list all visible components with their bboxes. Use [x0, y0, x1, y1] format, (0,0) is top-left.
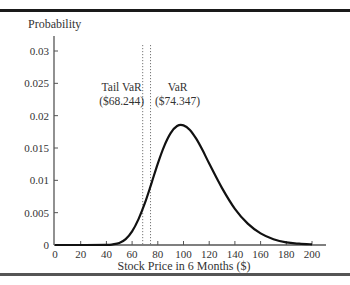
y-axis-title: Probability: [28, 17, 81, 31]
y-tick-label: 0.005: [24, 207, 49, 219]
y-tick-label: 0.03: [30, 45, 50, 57]
probability-density-chart: Probability 00.0050.010.0150.020.0250.03…: [0, 0, 350, 285]
y-tick-label: 0: [44, 239, 50, 251]
var-label-value: ($68.244): [99, 95, 144, 108]
x-tick-label: 180: [278, 248, 295, 260]
x-tick-label: 20: [75, 248, 87, 260]
y-tick-label: 0.015: [24, 142, 49, 154]
density-curve: [55, 125, 312, 245]
x-axis: 020406080100120140160180200: [52, 241, 326, 260]
bottom-rule: [0, 273, 350, 276]
var-label-title: VaR: [168, 81, 188, 93]
x-tick-label: 200: [304, 248, 321, 260]
y-axis: 00.0050.010.0150.020.0250.03: [24, 36, 58, 251]
x-tick-label: 0: [52, 248, 58, 260]
var-label-title: Tail VaR: [102, 81, 143, 93]
x-tick-label: 40: [101, 248, 113, 260]
var-markers: Tail VaR($68.244)VaR($74.347): [99, 45, 200, 245]
y-tick-label: 0.01: [30, 174, 49, 186]
y-tick-label: 0.025: [24, 77, 49, 89]
var-label-value: ($74.347): [155, 95, 200, 108]
x-tick-label: 160: [252, 248, 269, 260]
y-tick-label: 0.02: [30, 110, 49, 122]
x-axis-title: Stock Price in 6 Months ($): [118, 259, 251, 273]
